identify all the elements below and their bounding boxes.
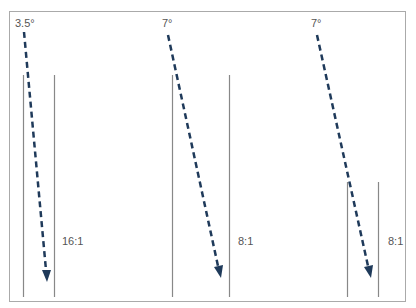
arrowhead-2 [214,265,223,278]
beam-arrow-3 [317,35,368,266]
ratio-label-3: 8:1 [388,236,403,247]
angle-label-3: 7° [311,18,322,29]
angle-label-1: 3.5° [15,18,35,29]
ratio-label-2: 8:1 [238,236,253,247]
arrowhead-1 [42,270,51,282]
frame [10,12,406,302]
beam-arrow-2 [168,35,218,266]
arrowhead-3 [364,265,373,278]
beam-arrow-1 [24,32,46,270]
angle-label-2: 7° [162,18,173,29]
grid-ratio-diagram [0,0,416,308]
ratio-label-1: 16:1 [62,236,83,247]
